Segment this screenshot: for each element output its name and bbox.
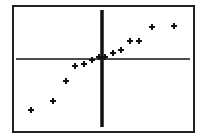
plus-marker-icon [89, 57, 95, 63]
plus-marker-icon [127, 38, 133, 44]
plus-marker-icon [81, 61, 87, 67]
plus-marker-icon [171, 23, 177, 29]
plus-marker-icon [63, 78, 69, 84]
plus-marker-icon [118, 47, 124, 53]
plus-marker-icon [72, 63, 78, 69]
plus-marker-icon [50, 98, 56, 104]
plus-marker-icon [28, 107, 34, 113]
scatter-plot [0, 0, 201, 140]
plus-marker-icon [149, 24, 155, 30]
plus-marker-icon [136, 38, 142, 44]
plus-marker-icon [110, 50, 116, 56]
